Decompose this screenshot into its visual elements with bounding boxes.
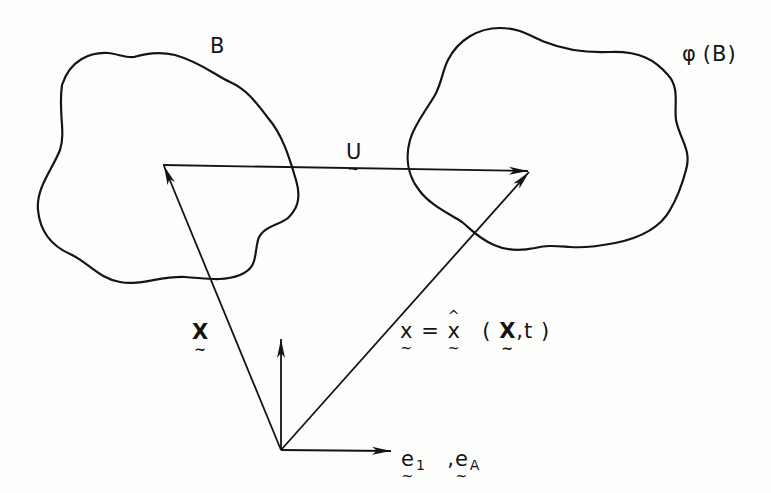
x-capital-vector-symbol: X (192, 322, 209, 343)
basis-label: e1 ,eA (401, 449, 480, 470)
basis-separator: , (447, 447, 455, 471)
motion-equation-label: x = x ( X,t ) (400, 321, 550, 342)
reference-position-label: X (192, 322, 209, 343)
mapped-body-label: φ(B) (682, 44, 737, 65)
e1-subscript: 1 (416, 457, 426, 473)
diagram-canvas: B φ(B) U X x = x ( X,t ) e1 ,eA (0, 0, 771, 493)
body-b-label: B (210, 36, 225, 57)
ea-base: e (455, 449, 469, 470)
body-phi-b-outline (408, 28, 688, 250)
paren-close: ) (727, 42, 736, 66)
eq-equals: = (421, 319, 440, 343)
displacement-label: U (346, 142, 362, 163)
phi-symbol: φ (682, 42, 697, 66)
eq-close: ) (541, 319, 550, 343)
eq-func: x (447, 321, 460, 342)
ea-subscript: A (470, 457, 481, 473)
paren-open: ( (703, 42, 712, 66)
body-b-outline (38, 53, 299, 283)
eq-lhs: x (400, 321, 413, 342)
u-vector-symbol: U (346, 142, 362, 163)
mapped-body-inner: B (712, 42, 727, 66)
e1-base: e (401, 449, 415, 470)
kinematics-diagram (0, 0, 771, 493)
eq-arg1: X (499, 321, 516, 342)
eq-arg2: t (524, 319, 533, 343)
eq-open: ( (482, 319, 491, 343)
displacement-vector-u (163, 165, 528, 171)
reference-position-vector-x (164, 166, 281, 450)
basis-horizontal-arrow (281, 450, 391, 451)
eq-comma: , (516, 319, 524, 343)
current-position-vector-x (281, 172, 529, 450)
